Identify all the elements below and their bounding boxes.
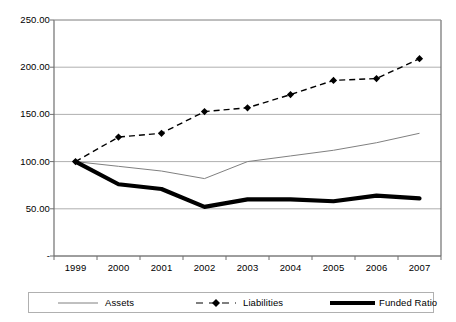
legend-label-funded-ratio: Funded Ratio [379, 297, 437, 308]
y-axis-tick-label: 150.00 [2, 109, 50, 119]
x-axis-tick-label: 2007 [409, 262, 431, 273]
x-axis-tick-label: 2006 [366, 262, 388, 273]
data-point-marker [244, 104, 251, 111]
chart-container: -50.00100.00150.00200.00250.00 199920002… [0, 0, 456, 322]
data-point-marker [416, 55, 423, 62]
axes [50, 20, 441, 260]
y-axis-tick-label: 50.00 [2, 204, 50, 214]
x-axis-tick-label: 2003 [237, 262, 259, 273]
series-liabilities [72, 55, 423, 165]
gridlines [54, 20, 441, 256]
chart-legend: Assets Liabilities Funded Ratio [28, 292, 434, 313]
data-point-marker [158, 130, 165, 137]
legend-item-assets: Assets [55, 293, 134, 312]
legend-swatch-funded-ratio-icon [329, 297, 375, 309]
y-axis-tick-label: 200.00 [2, 62, 50, 72]
legend-swatch-liabilities-icon [193, 297, 239, 309]
series-line [76, 133, 420, 178]
x-axis-tick-label: 2005 [323, 262, 345, 273]
legend-item-liabilities: Liabilities [193, 293, 283, 312]
x-axis-tick-label: 2001 [151, 262, 173, 273]
legend-swatch-assets-icon [55, 297, 101, 309]
y-axis-tick-label: 250.00 [2, 15, 50, 25]
x-axis-tick-label: 2000 [108, 262, 130, 273]
data-point-marker [330, 77, 337, 84]
x-axis-tick-label: 1999 [65, 262, 87, 273]
x-axis-tick-label: 2002 [194, 262, 216, 273]
y-axis: -50.00100.00150.00200.00250.00 [0, 0, 50, 280]
x-axis-tick-label: 2004 [280, 262, 302, 273]
data-point-marker [287, 91, 294, 98]
data-point-marker [115, 133, 122, 140]
y-axis-tick-label: - [2, 251, 50, 261]
series-assets [76, 133, 420, 178]
series-funded-ratio [76, 162, 420, 207]
data-point-marker [373, 75, 380, 82]
x-axis: 199920002001200220032004200520062007 [0, 262, 456, 278]
legend-item-funded-ratio: Funded Ratio [329, 293, 437, 312]
legend-label-assets: Assets [105, 297, 134, 308]
series-line [76, 162, 420, 207]
legend-label-liabilities: Liabilities [243, 297, 283, 308]
y-axis-tick-label: 100.00 [2, 157, 50, 167]
